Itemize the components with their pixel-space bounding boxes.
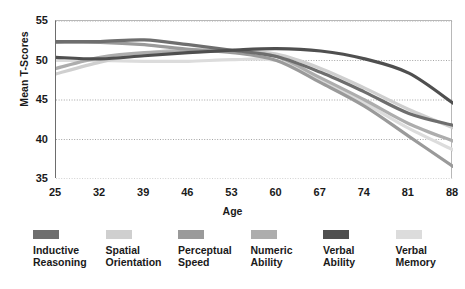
y-tick-40: 40 <box>22 133 48 145</box>
plot-area <box>55 20 452 178</box>
legend-label: Verbal Memory <box>396 245 465 268</box>
y-tick-50: 50 <box>22 54 48 66</box>
legend-swatch <box>106 230 132 239</box>
legend-swatch <box>33 230 59 239</box>
chart-legend: Inductive ReasoningSpatial OrientationPe… <box>0 230 465 286</box>
x-tick-46: 46 <box>167 186 207 198</box>
x-tick-25: 25 <box>35 186 75 198</box>
x-tick-39: 39 <box>123 186 163 198</box>
x-tick-81: 81 <box>388 186 428 198</box>
x-tick-53: 53 <box>211 186 251 198</box>
legend-swatch <box>323 230 349 239</box>
x-tick-88: 88 <box>432 186 465 198</box>
plot-svg <box>56 21 453 179</box>
legend-swatch <box>251 230 277 239</box>
y-tick-45: 45 <box>22 93 48 105</box>
legend-swatch <box>396 230 422 239</box>
chart-container: Mean T-Scores 55 50 45 40 35 25323946536… <box>0 0 465 289</box>
x-tick-32: 32 <box>79 186 119 198</box>
x-tick-67: 67 <box>300 186 340 198</box>
legend-item-verbal-memory[interactable]: Verbal Memory <box>396 230 465 268</box>
series-line-inductive-reasoning <box>56 40 453 125</box>
x-axis-label: Age <box>0 205 465 217</box>
x-axis-ticks: 25323946536067748188 <box>0 186 465 204</box>
y-tick-35: 35 <box>22 172 48 184</box>
x-tick-60: 60 <box>256 186 296 198</box>
y-tick-55: 55 <box>22 14 48 26</box>
legend-swatch <box>178 230 204 239</box>
series-line-verbal-memory <box>56 59 453 150</box>
x-tick-74: 74 <box>344 186 384 198</box>
